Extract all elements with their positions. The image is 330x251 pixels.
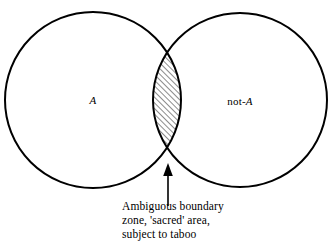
arrow-head-icon — [163, 163, 173, 176]
set-label-not-a-italic: A — [246, 95, 253, 107]
caption-line-2: zone, 'sacred' area, — [122, 214, 322, 228]
caption-line-1: Ambiguous boundary — [122, 200, 322, 214]
annotation-caption: Ambiguous boundary zone, 'sacred' area, … — [122, 200, 322, 241]
set-label-not-a-prefix: not- — [227, 95, 246, 107]
set-label-not-a: not-A — [227, 95, 252, 107]
set-label-a-text: A — [90, 94, 97, 106]
set-label-a: A — [90, 94, 97, 106]
caption-line-3: subject to taboo — [122, 228, 322, 242]
venn-diagram-figure: A not-A Ambiguous boundary zone, 'sacred… — [0, 0, 330, 251]
